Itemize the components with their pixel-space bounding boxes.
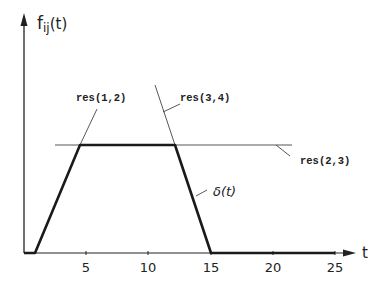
res34-line bbox=[155, 85, 175, 145]
label-res23: res(2,3) bbox=[300, 155, 350, 167]
res34-leader bbox=[163, 104, 180, 112]
label-res34: res(3,4) bbox=[180, 92, 230, 104]
label-delta: δ(t) bbox=[213, 184, 236, 199]
res23-leader bbox=[276, 145, 290, 156]
x-tick-label: 20 bbox=[265, 260, 282, 275]
x-tick-label: 10 bbox=[140, 260, 157, 275]
y-axis-label: fij(t) bbox=[37, 13, 67, 35]
diagram-canvas: 5 10 15 20 25 t fij(t) res(1,2) res(3,4)… bbox=[0, 0, 387, 287]
x-tick-label: 15 bbox=[203, 260, 220, 275]
function-fij-curve bbox=[24, 145, 335, 253]
label-res12: res(1,2) bbox=[76, 92, 126, 104]
x-tick-label: 25 bbox=[327, 260, 344, 275]
x-axis-label: t bbox=[362, 244, 368, 262]
delta-leader bbox=[196, 190, 207, 196]
x-tick-label: 5 bbox=[82, 260, 90, 275]
y-axis-arrow-icon bbox=[21, 13, 28, 26]
x-axis-arrow-icon bbox=[343, 250, 356, 257]
res12-line bbox=[80, 109, 97, 145]
